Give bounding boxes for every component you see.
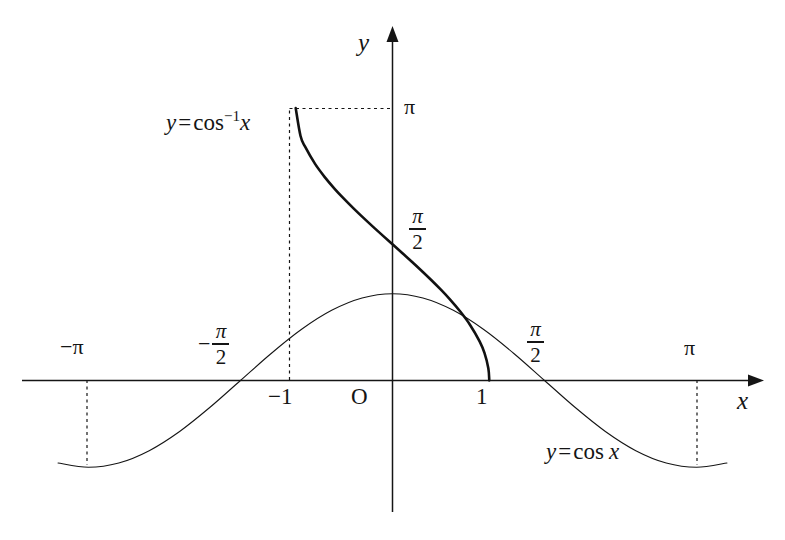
fraction-denominator: 2 [409, 230, 426, 253]
x-tick-label-neg-one: −1 [268, 385, 292, 408]
fraction-numerator: π [527, 318, 544, 341]
fraction-sign: − [198, 331, 210, 357]
y-tick-label-pi: π [404, 96, 415, 118]
x-tick-label-pi: π [684, 337, 695, 359]
x-tick-label-neg-pi-half: − π 2 [198, 320, 229, 368]
x-tick-label-neg-pi: −π [60, 336, 84, 358]
y-tick-label-pi-half: π 2 [409, 205, 426, 253]
fraction-numerator: π [213, 320, 230, 343]
x-axis-label: x [737, 388, 748, 413]
x-tick-label-one: 1 [476, 385, 488, 408]
curve-label-cosine: y=cosx [546, 440, 619, 463]
y-axis-label: y [358, 30, 369, 55]
graph-figure [0, 0, 785, 540]
fraction-pi-over-2: π 2 [527, 318, 544, 366]
arccos-label-equals: = [176, 110, 193, 135]
cosine-label-fn: cos [573, 439, 604, 464]
arccos-label-arg: x [240, 110, 250, 135]
curve-label-arccos: y=cos−1x [166, 108, 250, 134]
origin-label: O [351, 385, 368, 408]
x-tick-label-pi-half: π 2 [527, 318, 544, 366]
cosine-label-lhs: y [546, 439, 556, 464]
cosine-label-equals: = [556, 439, 573, 464]
fraction-pi-over-2: π 2 [212, 320, 229, 368]
arccos-label-exponent: −1 [224, 107, 240, 124]
cosine-label-arg: x [604, 439, 619, 464]
arccos-label-fn: cos [193, 110, 224, 135]
arccos-label-lhs: y [166, 110, 176, 135]
fraction-pi-over-2: π 2 [409, 205, 426, 253]
fraction-denominator: 2 [527, 343, 544, 366]
fraction-numerator: π [409, 205, 426, 228]
fraction-denominator: 2 [213, 345, 230, 368]
